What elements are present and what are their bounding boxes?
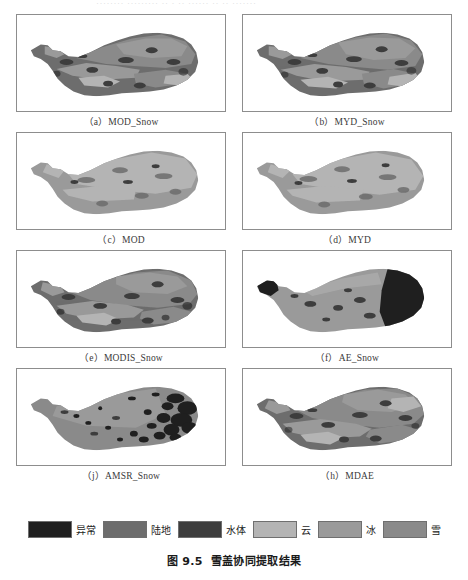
legend-item-snow[interactable]: 雪	[383, 521, 441, 538]
map-panel-modis-snow[interactable]	[16, 250, 226, 348]
panel-cell-f: （f）AE_Snow	[242, 250, 452, 368]
legend-label-anomaly: 异常	[76, 522, 96, 537]
map-image-myd	[243, 133, 451, 229]
map-image-mod-snow	[17, 15, 225, 111]
legend-label-ice: 冰	[366, 522, 376, 537]
legend-swatch-cloud	[253, 521, 297, 538]
panel-grid: （a）MOD_Snow	[16, 14, 452, 486]
map-panel-ae-snow[interactable]	[242, 250, 452, 348]
panel-caption-d: （d）MYD	[242, 230, 452, 250]
panel-caption-e: （e）MODIS_Snow	[16, 348, 226, 368]
map-panel-myd[interactable]	[242, 132, 452, 230]
map-image-ae-snow	[243, 251, 451, 347]
legend-label-snow: 雪	[431, 522, 441, 537]
legend-swatch-anomaly	[28, 521, 72, 538]
map-image-mod	[17, 133, 225, 229]
map-panel-myd-snow[interactable]	[242, 14, 452, 112]
map-image-myd-snow	[243, 15, 451, 111]
panel-cell-a: （a）MOD_Snow	[16, 14, 226, 132]
figure-caption-title: 雪盖协同提取结果	[211, 555, 301, 568]
map-image-modis-snow	[17, 251, 225, 347]
map-panel-mod[interactable]	[16, 132, 226, 230]
panel-caption-j: （j）AMSR_Snow	[16, 466, 226, 486]
panel-caption-h: （h）MDAE	[242, 466, 452, 486]
legend-label-cloud: 云	[301, 522, 311, 537]
legend-item-water[interactable]: 水体	[178, 521, 246, 538]
panel-caption-b: （b）MYD_Snow	[242, 112, 452, 132]
legend-item-anomaly[interactable]: 异常	[28, 521, 96, 538]
panel-caption-f: （f）AE_Snow	[242, 348, 452, 368]
panel-cell-j: （j）AMSR_Snow	[16, 368, 226, 486]
legend-item-cloud[interactable]: 云	[253, 521, 311, 538]
legend-swatch-water	[178, 521, 222, 538]
legend-swatch-ice	[318, 521, 362, 538]
panel-cell-e: （e）MODIS_Snow	[16, 250, 226, 368]
map-panel-mdae[interactable]	[242, 368, 452, 466]
panel-cell-h: （h）MDAE	[242, 368, 452, 486]
clipped-header-text: ········ ········· ·· · ·· ······ ·· ·· …	[96, 0, 456, 7]
figure-caption: 图 9.5雪盖协同提取结果	[0, 552, 468, 568]
map-image-mdae	[243, 369, 451, 465]
legend-label-water: 水体	[226, 522, 246, 537]
figure-9-5: （a）MOD_Snow	[0, 14, 468, 486]
figure-caption-number: 图 9.5	[167, 555, 203, 568]
map-panel-mod-snow[interactable]	[16, 14, 226, 112]
panel-caption-c: （c）MOD	[16, 230, 226, 250]
panel-caption-a: （a）MOD_Snow	[16, 112, 226, 132]
panel-cell-d: （d）MYD	[242, 132, 452, 250]
map-panel-amsr-snow[interactable]	[16, 368, 226, 466]
panel-cell-c: （c）MOD	[16, 132, 226, 250]
legend-swatch-snow	[383, 521, 427, 538]
map-image-amsr-snow	[17, 369, 225, 465]
map-legend: 异常 陆地 水体 云 冰 雪	[0, 521, 468, 538]
legend-item-ice[interactable]: 冰	[318, 521, 376, 538]
legend-swatch-land	[103, 521, 147, 538]
legend-item-land[interactable]: 陆地	[103, 521, 171, 538]
panel-cell-b: （b）MYD_Snow	[242, 14, 452, 132]
legend-label-land: 陆地	[151, 522, 171, 537]
